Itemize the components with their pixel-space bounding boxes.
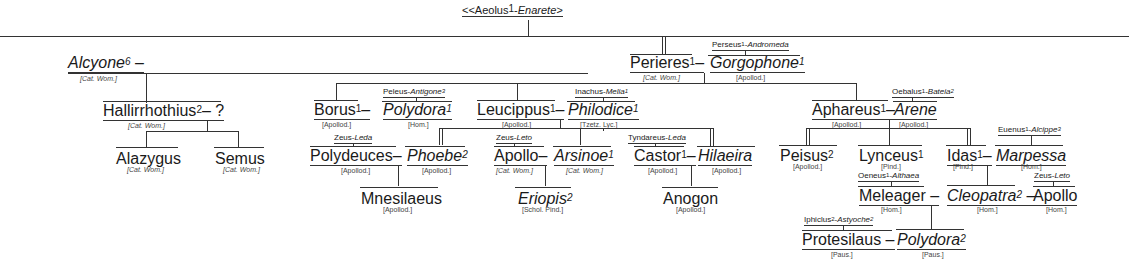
src-lynceus: [Pind.] xyxy=(881,163,901,171)
src-perieres: [Cat. Wom.] xyxy=(643,74,680,82)
perieres-stem-a xyxy=(662,36,663,54)
cleopatra-overline xyxy=(947,185,1015,186)
name: Polydeuces xyxy=(310,147,393,164)
name: Cleopatra xyxy=(947,187,1016,204)
sup: 2 xyxy=(462,149,468,160)
name: Protesilaus xyxy=(802,231,881,248)
mother: Astyoche xyxy=(837,215,870,224)
idas-marriage-stem xyxy=(987,166,988,185)
node-leucippus[interactable]: Leucippus1– xyxy=(477,101,564,120)
node-borus[interactable]: Borus1– xyxy=(314,101,370,120)
src-meleager: [Hom.] xyxy=(881,206,902,214)
father: Euenus xyxy=(998,125,1025,134)
node-polydeuces[interactable]: Polydeuces– xyxy=(310,147,402,166)
arsinoe-stem xyxy=(580,128,581,145)
mother: Melia xyxy=(606,87,625,96)
meleager-marriage-stem xyxy=(931,205,932,229)
name: Arsinoe xyxy=(554,147,608,164)
node-polydora2[interactable]: Polydora2 xyxy=(897,231,966,250)
leucippus-children-line-ext xyxy=(606,128,714,129)
node-arsinoe[interactable]: Arsinoe1 xyxy=(554,147,614,166)
name: Peisus xyxy=(780,147,828,164)
lynceus-stem xyxy=(889,128,890,145)
apollo1-marriage-stem xyxy=(545,166,546,186)
marriage-dash: – xyxy=(556,101,565,118)
node-polydora1[interactable]: Polydora1 xyxy=(383,101,452,120)
src-apollo2: [Hom.] xyxy=(1046,206,1067,214)
mother: Althaea xyxy=(892,171,919,180)
mother-sup: 3 xyxy=(442,88,445,94)
src-anogon: [Apollod.] xyxy=(676,206,705,214)
semus-stem xyxy=(238,131,239,147)
mother-sup: 2 xyxy=(951,88,954,94)
father: Tyndareus xyxy=(628,133,665,142)
sup: 1 xyxy=(550,103,556,114)
node-alcyone[interactable]: Alcyone6 – xyxy=(68,54,144,73)
src-castor: [Apollod.] xyxy=(648,167,677,175)
src-phoebe: [Apollod.] xyxy=(422,167,451,175)
marriage-dash: – xyxy=(538,147,547,164)
node-protesilaus[interactable]: Protesilaus – xyxy=(802,231,895,250)
marriage-dash: – xyxy=(361,101,370,118)
marriage-dash: – xyxy=(881,231,894,248)
node-apollo1[interactable]: Apollo– xyxy=(494,147,547,166)
father-sup: 1 xyxy=(922,88,925,94)
node-cleopatra[interactable]: Cleopatra2 – xyxy=(947,187,1035,206)
src-hilaeira: [Apollod.] xyxy=(712,167,741,175)
father: Oebalus xyxy=(892,87,922,96)
src-semus: [Cat. Wom.] xyxy=(223,166,260,174)
root-tail: > xyxy=(556,4,562,16)
node-apollo2[interactable]: Apollo xyxy=(1033,187,1077,206)
name: Gorgophone xyxy=(710,54,799,71)
marriage-dash: – xyxy=(926,187,939,204)
root-wife: Enarete xyxy=(518,4,557,16)
sup: 1 xyxy=(977,149,983,160)
sup: 1 xyxy=(681,149,687,160)
peisus-stem-a xyxy=(806,128,807,145)
sup: 2 xyxy=(828,149,834,160)
root-couple-label: <<Aeolus1-Enarete> xyxy=(462,4,563,17)
peisus-stem-b xyxy=(809,128,810,145)
gorgophone-parents: Perseus1-Andromeda xyxy=(712,40,789,51)
marriage-dash: – xyxy=(130,54,143,71)
src-marpessa: [Hom.] xyxy=(1021,163,1042,171)
src-hallirrhothius: [Cat. Wom.] xyxy=(128,122,165,130)
node-phoebe[interactable]: Phoebe2 xyxy=(407,147,468,166)
name: Idas xyxy=(947,147,977,164)
node-meleager[interactable]: Meleager – xyxy=(859,187,939,206)
src-idas: [Pind.] xyxy=(953,163,973,171)
mother-sup: 3 xyxy=(1057,126,1060,132)
sup: 1 xyxy=(633,103,639,114)
name: Apollo xyxy=(494,147,538,164)
name: Borus xyxy=(314,101,356,118)
generation-line-main xyxy=(0,36,1129,37)
node-hilaeira[interactable]: Hilaeira xyxy=(698,147,752,166)
father: Zeus xyxy=(334,133,352,142)
polydora1-parents: Peleus-Antigone3 xyxy=(383,87,445,98)
src-eriopis: [Schol. Pind.] xyxy=(522,206,563,214)
root-stem xyxy=(528,20,529,36)
castor-marriage-stem xyxy=(691,166,692,186)
mother: Andromeda xyxy=(747,40,788,49)
node-gorgophone[interactable]: Gorgophone1 xyxy=(710,54,805,73)
perieres-stem-b xyxy=(665,36,666,54)
aphareus-stem xyxy=(856,83,857,100)
name: Perieres xyxy=(630,54,690,71)
sup: 1 xyxy=(608,149,614,160)
mother-sup: 2 xyxy=(870,216,873,222)
leucippus-marriage-stem xyxy=(560,120,561,128)
mother: Bateia xyxy=(928,87,951,96)
node-hallirrhothius[interactable]: Hallirrhothius2– ? xyxy=(103,102,224,121)
father: Inachus xyxy=(575,87,603,96)
node-arene[interactable]: Arene xyxy=(894,101,937,120)
hilaeira-stem-a xyxy=(603,128,604,131)
marriage-dash: – xyxy=(687,147,696,164)
father: Iphiclus xyxy=(804,215,831,224)
node-perieres[interactable]: Perieres1– xyxy=(630,54,704,73)
polydeuces-marriage-stem xyxy=(398,166,399,186)
name: Castor xyxy=(634,147,681,164)
name: Aphareus xyxy=(812,101,881,118)
node-philodice[interactable]: Philodice1 xyxy=(568,101,639,120)
node-castor[interactable]: Castor1– xyxy=(634,147,696,166)
node-aphareus[interactable]: Aphareus1– xyxy=(812,101,895,120)
